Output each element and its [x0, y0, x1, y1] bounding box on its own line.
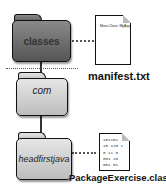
page-fold-icon — [122, 133, 130, 141]
class-binary-content: 101101 10 110 1 0 11 0 001 10 001 01 — [103, 137, 123, 168]
manifest-filename: manifest.txt — [88, 70, 150, 82]
folder-classes[interactable]: classes — [12, 14, 72, 62]
folder-headfirstjava[interactable]: headfirstjava — [16, 132, 72, 180]
folder-label-com: com — [33, 85, 52, 96]
class-file[interactable]: 101101 10 110 1 0 11 0 001 10 001 01 — [99, 133, 130, 171]
folder-label-classes: classes — [23, 36, 59, 47]
manifest-file[interactable]: Main-Class: MyApp — [95, 15, 131, 65]
separator-dotted-line — [6, 68, 78, 69]
class-filename: PackageExercise.class — [69, 172, 166, 183]
link-headfirstjava-classfile — [72, 152, 96, 154]
manifest-content: Main-Class: MyApp — [100, 24, 130, 28]
folder-com[interactable]: com — [16, 72, 70, 118]
folder-label-headfirstjava: headfirstjava — [18, 154, 69, 164]
page-fold-icon — [123, 15, 131, 23]
link-classes-manifest — [72, 40, 94, 42]
